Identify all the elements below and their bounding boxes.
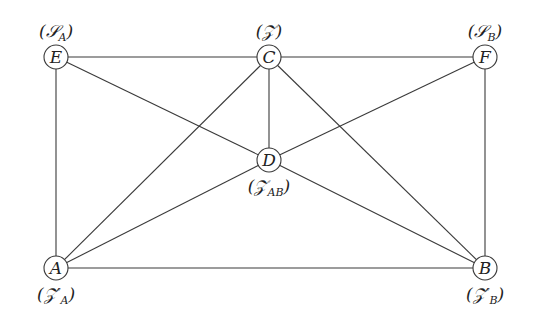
node-A: A(𝒵′A) [37, 256, 75, 307]
node-annotation: (𝒮A) [39, 21, 73, 44]
node-D: D(𝒵AB) [248, 148, 290, 199]
node-label: B [478, 258, 492, 278]
node-label: C [262, 47, 275, 67]
nodes: E(𝒮A)C(𝒵)F(𝒮B)D(𝒵AB)A(𝒵′A)B(𝒵′B) [37, 21, 504, 307]
edge-F-D [269, 57, 485, 160]
edge-B-D [269, 160, 485, 268]
node-annotation: (𝒵′A) [37, 284, 75, 307]
node-annotation: (𝒮B) [468, 21, 502, 44]
node-F: F(𝒮B) [468, 21, 502, 69]
node-C: C(𝒵) [256, 21, 282, 69]
edge-E-D [56, 57, 269, 160]
node-label: E [49, 47, 63, 67]
node-label: F [478, 47, 492, 67]
node-annotation: (𝒵) [256, 21, 282, 41]
node-annotation: (𝒵AB) [248, 176, 290, 199]
edge-C-B [269, 57, 485, 268]
node-B: B(𝒵′B) [466, 256, 504, 307]
graph-diagram: E(𝒮A)C(𝒵)F(𝒮B)D(𝒵AB)A(𝒵′A)B(𝒵′B) [0, 0, 538, 325]
node-annotation: (𝒵′B) [466, 284, 504, 307]
node-label: A [48, 258, 62, 278]
node-E: E(𝒮A) [39, 21, 73, 69]
node-label: D [261, 150, 276, 170]
graph-svg: E(𝒮A)C(𝒵)F(𝒮B)D(𝒵AB)A(𝒵′A)B(𝒵′B) [0, 0, 538, 325]
edge-A-C [56, 57, 269, 268]
edge-A-D [56, 160, 269, 268]
